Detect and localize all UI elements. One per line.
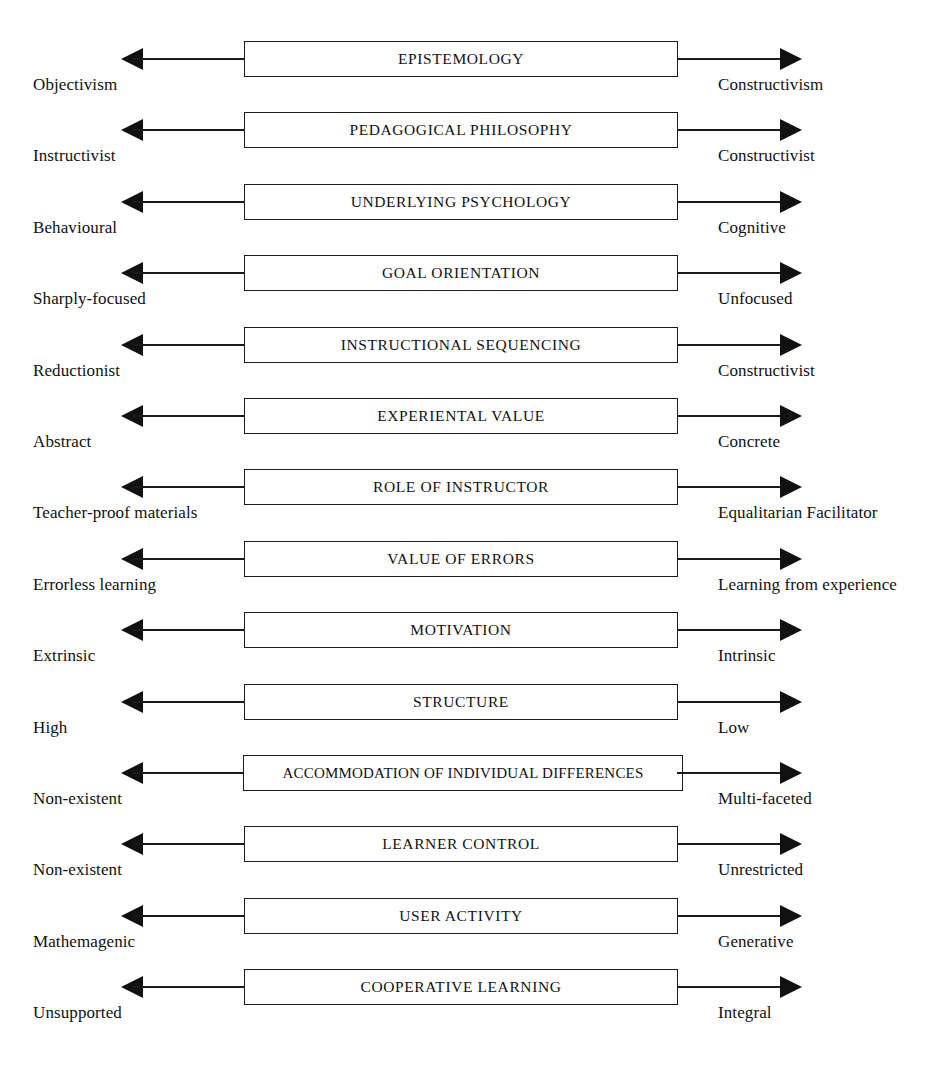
right-pole-label: Unfocused (718, 289, 793, 309)
right-pole-label: Equalitarian Facilitator (718, 503, 878, 523)
connector-line-left (133, 201, 245, 203)
arrow-right-icon (780, 48, 802, 70)
left-pole-label: Sharply-focused (33, 289, 146, 309)
dimension-label: INSTRUCTIONAL SEQUENCING (245, 328, 677, 362)
right-pole-label: Constructivist (718, 146, 815, 166)
connector-line-left (133, 272, 245, 274)
dimension-box: INSTRUCTIONAL SEQUENCING (244, 327, 678, 363)
connector-line-right (677, 272, 790, 274)
right-pole-label: Cognitive (718, 218, 786, 238)
continuum-row: USER ACTIVITY Mathemagenic Generative (0, 892, 949, 964)
right-pole-label: Intrinsic (718, 646, 776, 666)
dimension-box: USER ACTIVITY (244, 898, 678, 934)
connector-line-left (133, 772, 245, 774)
connector-line-left (133, 558, 245, 560)
left-pole-label: Errorless learning (33, 575, 156, 595)
left-pole-label: Unsupported (33, 1003, 122, 1023)
continuum-row: GOAL ORIENTATION Sharply-focused Unfocus… (0, 249, 949, 321)
left-pole-label: Non-existent (33, 860, 122, 880)
arrow-right-icon (780, 262, 802, 284)
left-pole-label: Instructivist (33, 146, 116, 166)
dimension-label: ACCOMMODATION OF INDIVIDUAL DIFFERENCES (244, 756, 682, 790)
right-pole-label: Concrete (718, 432, 780, 452)
dimension-box: LEARNER CONTROL (244, 826, 678, 862)
continuum-row: ROLE OF INSTRUCTOR Teacher-proof materia… (0, 463, 949, 535)
connector-line-left (133, 486, 245, 488)
connector-line-right (677, 344, 790, 346)
dimension-box: MOTIVATION (244, 612, 678, 648)
dimension-box: EXPERIENTAL VALUE (244, 398, 678, 434)
connector-line-right (677, 843, 790, 845)
connector-line-left (133, 129, 245, 131)
right-pole-label: Constructivist (718, 361, 815, 381)
arrow-right-icon (780, 976, 802, 998)
dimension-box: UNDERLYING PSYCHOLOGY (244, 184, 678, 220)
dimension-label: GOAL ORIENTATION (245, 256, 677, 290)
connector-line-right (677, 558, 790, 560)
left-pole-label: Reductionist (33, 361, 120, 381)
dimension-box: EPISTEMOLOGY (244, 41, 678, 77)
connector-line-right (677, 915, 790, 917)
left-pole-label: Objectivism (33, 75, 117, 95)
arrow-right-icon (780, 476, 802, 498)
continuum-row: INSTRUCTIONAL SEQUENCING Reductionist Co… (0, 321, 949, 393)
connector-line-left (133, 915, 245, 917)
left-pole-label: Abstract (33, 432, 91, 452)
connector-line-right (677, 986, 790, 988)
connector-line-left (133, 58, 245, 60)
dimension-label: VALUE OF ERRORS (245, 542, 677, 576)
arrow-right-icon (780, 833, 802, 855)
dimension-label: STRUCTURE (245, 685, 677, 719)
connector-line-left (133, 629, 245, 631)
connector-line-right (677, 772, 790, 774)
connector-line-right (677, 701, 790, 703)
left-pole-label: Non-existent (33, 789, 122, 809)
continuum-row: STRUCTURE High Low (0, 678, 949, 750)
dimension-label: UNDERLYING PSYCHOLOGY (245, 185, 677, 219)
right-pole-label: Unrestricted (718, 860, 803, 880)
connector-line-left (133, 415, 245, 417)
right-pole-label: Constructivism (718, 75, 823, 95)
right-pole-label: Generative (718, 932, 794, 952)
dimension-box: STRUCTURE (244, 684, 678, 720)
connector-line-right (677, 629, 790, 631)
continuum-row: COOPERATIVE LEARNING Unsupported Integra… (0, 963, 949, 1035)
right-pole-label: Integral (718, 1003, 772, 1023)
continuum-row: EXPERIENTAL VALUE Abstract Concrete (0, 392, 949, 464)
continuum-row: EPISTEMOLOGY Objectivism Constructivism (0, 35, 949, 107)
continuum-row: ACCOMMODATION OF INDIVIDUAL DIFFERENCES … (0, 749, 949, 821)
dimension-label: USER ACTIVITY (245, 899, 677, 933)
continuum-row: LEARNER CONTROL Non-existent Unrestricte… (0, 820, 949, 892)
continuum-row: PEDAGOGICAL PHILOSOPHY Instructivist Con… (0, 106, 949, 178)
dimension-label: LEARNER CONTROL (245, 827, 677, 861)
left-pole-label: Behavioural (33, 218, 117, 238)
left-pole-label: High (33, 718, 67, 738)
arrow-right-icon (780, 762, 802, 784)
dimension-box: ACCOMMODATION OF INDIVIDUAL DIFFERENCES (243, 755, 683, 791)
arrow-right-icon (780, 405, 802, 427)
connector-line-left (133, 986, 245, 988)
connector-line-right (677, 486, 790, 488)
left-pole-label: Mathemagenic (33, 932, 135, 952)
left-pole-label: Teacher-proof materials (33, 503, 198, 523)
arrow-right-icon (780, 334, 802, 356)
dimension-box: COOPERATIVE LEARNING (244, 969, 678, 1005)
arrow-right-icon (780, 691, 802, 713)
connector-line-right (677, 415, 790, 417)
dimension-box: PEDAGOGICAL PHILOSOPHY (244, 112, 678, 148)
continuum-row: MOTIVATION Extrinsic Intrinsic (0, 606, 949, 678)
connector-line-right (677, 58, 790, 60)
right-pole-label: Low (718, 718, 749, 738)
dimension-label: EPISTEMOLOGY (245, 42, 677, 76)
dimension-box: ROLE OF INSTRUCTOR (244, 469, 678, 505)
connector-line-left (133, 344, 245, 346)
dimension-label: ROLE OF INSTRUCTOR (245, 470, 677, 504)
connector-line-left (133, 701, 245, 703)
dimension-label: COOPERATIVE LEARNING (245, 970, 677, 1004)
connector-line-right (677, 129, 790, 131)
arrow-right-icon (780, 191, 802, 213)
dimension-box: VALUE OF ERRORS (244, 541, 678, 577)
arrow-right-icon (780, 905, 802, 927)
arrow-right-icon (780, 548, 802, 570)
connector-line-right (677, 201, 790, 203)
